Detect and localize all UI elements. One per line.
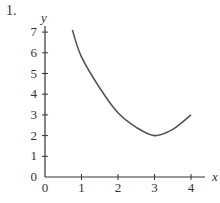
x-tick-label: 3: [151, 180, 158, 195]
y-tick-label: 6: [31, 45, 38, 60]
y-tick-label: 5: [31, 66, 38, 81]
x-tick-label: 2: [115, 180, 122, 195]
y-tick-label: 1: [31, 148, 38, 163]
data-curve: [72, 30, 191, 136]
chart-svg: 0123401234567xy: [0, 0, 220, 203]
y-tick-label: 4: [31, 86, 38, 101]
y-axis-label: y: [39, 10, 47, 25]
y-tick-label: 2: [31, 128, 38, 143]
x-axis-label: x: [211, 169, 218, 184]
x-tick-label: 1: [78, 180, 85, 195]
x-tick-label: 0: [42, 180, 49, 195]
x-tick-label: 4: [188, 180, 195, 195]
y-tick-label: 0: [31, 169, 38, 184]
y-tick-label: 3: [31, 107, 38, 122]
y-tick-label: 7: [31, 24, 38, 39]
